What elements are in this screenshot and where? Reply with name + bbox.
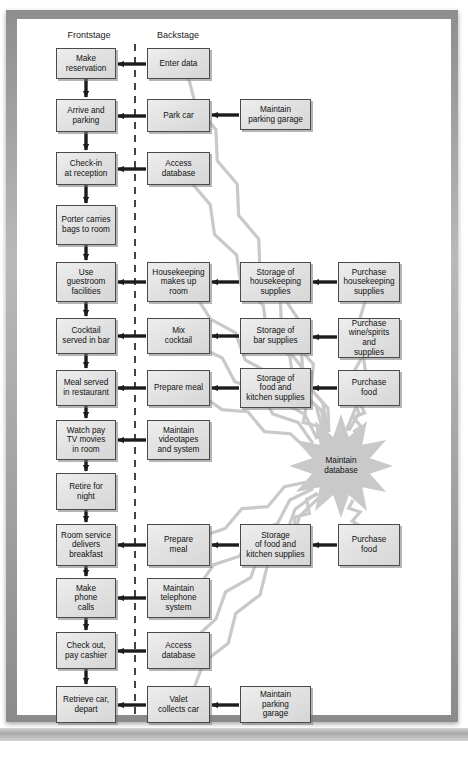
node-make-phone-calls[interactable]: Make phone calls — [56, 578, 116, 618]
node-maintain-parking-2[interactable]: Maintain parking garage — [240, 686, 311, 723]
node-prepare-meal-2[interactable]: Prepare meal — [147, 524, 210, 566]
node-maintain-telephone[interactable]: Maintain telephone system — [147, 578, 210, 618]
node-mix-cocktail[interactable]: Mix cocktail — [147, 318, 210, 354]
node-housekeeping[interactable]: Housekeeping makes up room — [147, 262, 210, 302]
node-maintain-parking-1[interactable]: Maintain parking garage — [240, 99, 311, 130]
node-storage-bar[interactable]: Storage of bar supplies — [240, 318, 311, 354]
node-watch-pay-tv[interactable]: Watch pay TV movies in room — [56, 420, 116, 460]
node-purchase-housekeeping[interactable]: Purchase housekeeping supplies — [338, 262, 400, 302]
column-header-backstage: Backstage — [146, 30, 210, 40]
node-check-out[interactable]: Check out, pay cashier — [56, 632, 116, 669]
node-purchase-wine[interactable]: Purchase wine/spirits and supplies — [338, 318, 400, 358]
column-header-frontstage: Frontstage — [57, 30, 121, 40]
maintain-database-label: Maintain database — [301, 456, 381, 475]
figure-caption — [6, 745, 206, 757]
node-purchase-food-1[interactable]: Purchase food — [338, 370, 400, 406]
node-storage-food-2[interactable]: Storage of food and kitchen supplies — [240, 524, 311, 566]
node-enter-data[interactable]: Enter data — [147, 48, 210, 79]
node-prepare-meal-1[interactable]: Prepare meal — [147, 370, 210, 406]
node-make-reservation[interactable]: Make reservation — [56, 48, 116, 79]
node-valet-collects-car[interactable]: Valet collects car — [147, 686, 210, 723]
node-storage-housekeeping[interactable]: Storage of housekeeping supplies — [240, 262, 311, 302]
node-meal-served[interactable]: Meal served in restaurant — [56, 370, 116, 406]
node-access-database-2[interactable]: Access database — [147, 632, 210, 669]
node-retire-for-night[interactable]: Retire for night — [56, 473, 116, 510]
node-cocktail-served[interactable]: Cocktail served in bar — [56, 318, 116, 354]
node-access-database-1[interactable]: Access database — [147, 152, 210, 185]
node-porter-carries-bags[interactable]: Porter carries bags to room — [56, 205, 116, 245]
database-link-to-purchase-food-2 — [349, 500, 361, 526]
node-retrieve-car[interactable]: Retrieve car, depart — [56, 686, 116, 723]
figure-page: Frontstage Backstage Make reservationEnt… — [0, 0, 468, 759]
node-use-guestroom[interactable]: Use guestroom facilities — [56, 262, 116, 302]
node-park-car[interactable]: Park car — [147, 99, 210, 132]
node-purchase-food-2[interactable]: Purchase food — [338, 524, 400, 566]
scan-bottom-band — [0, 728, 468, 741]
node-arrive-parking[interactable]: Arrive and parking — [56, 99, 116, 132]
node-check-in[interactable]: Check-in at reception — [56, 152, 116, 185]
node-storage-food-1[interactable]: Storage of food and kitchen supplies — [240, 368, 311, 408]
node-room-service[interactable]: Room service delivers breakfast — [56, 524, 116, 566]
node-maintain-videotapes[interactable]: Maintain videotapes and system — [147, 420, 210, 460]
